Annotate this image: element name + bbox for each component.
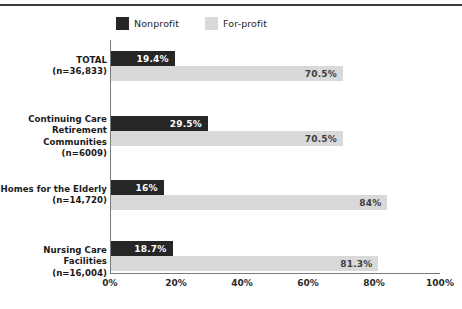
bar-row: 29.5% <box>111 116 440 131</box>
category-name-line: Nursing Care Facilities <box>0 245 107 268</box>
plot-area: TOTAL(n=36,833)19.4%70.5%Continuing Care… <box>110 40 440 274</box>
legend-swatch-nonprofit <box>116 17 129 30</box>
bar-row: 70.5% <box>111 131 440 146</box>
bar-row: 18.7% <box>111 241 440 256</box>
bar-group: Continuing CareRetirement Communities(n=… <box>111 116 440 146</box>
category-sample-size: (n=36,833) <box>0 66 107 78</box>
bar-group: Homes for the Elderly(n=14,720)16%84% <box>111 180 440 210</box>
bar-value-label: 81.3% <box>340 259 378 269</box>
x-tick-label: 80% <box>363 278 385 288</box>
bar-nonprofit[interactable]: 19.4% <box>111 51 175 66</box>
bar-group: Nursing Care Facilities(n=16,004)18.7%81… <box>111 241 440 271</box>
x-tick-label: 40% <box>231 278 253 288</box>
legend-entry-nonprofit: Nonprofit <box>116 17 179 30</box>
top-divider-rule <box>0 4 462 6</box>
bar-value-label: 70.5% <box>305 134 343 144</box>
chart-legend: NonprofitFor-profit <box>116 16 267 30</box>
category-label: TOTAL(n=36,833) <box>0 55 107 78</box>
bar-value-label: 70.5% <box>305 69 343 79</box>
bar-row: 84% <box>111 195 440 210</box>
bar-value-label: 19.4% <box>137 54 175 64</box>
category-label: Nursing Care Facilities(n=16,004) <box>0 245 107 280</box>
bar-value-label: 16% <box>135 183 163 193</box>
bar-nonprofit[interactable]: 29.5% <box>111 116 208 131</box>
x-axis-tick-labels: 0%20%40%60%80%100% <box>110 278 440 292</box>
category-label: Continuing CareRetirement Communities(n=… <box>0 114 107 160</box>
legend-entry-forprofit: For-profit <box>205 17 267 30</box>
category-name-line: Continuing Care <box>0 114 107 126</box>
x-tick-label: 100% <box>426 278 454 288</box>
bar-row: 19.4% <box>111 51 440 66</box>
category-name-line: TOTAL <box>0 55 107 67</box>
bar-forprofit[interactable]: 70.5% <box>111 66 343 81</box>
bar-row: 81.3% <box>111 256 440 271</box>
category-name-line: Homes for the Elderly <box>0 184 107 196</box>
bar-forprofit[interactable]: 81.3% <box>111 256 378 271</box>
category-sample-size: (n=14,720) <box>0 195 107 207</box>
bar-forprofit[interactable]: 70.5% <box>111 131 343 146</box>
legend-label-nonprofit: Nonprofit <box>134 18 179 29</box>
legend-label-forprofit: For-profit <box>223 18 267 29</box>
x-tick-label: 20% <box>165 278 187 288</box>
category-label: Homes for the Elderly(n=14,720) <box>0 184 107 207</box>
bar-value-label: 29.5% <box>170 119 208 129</box>
bar-nonprofit[interactable]: 18.7% <box>111 241 173 256</box>
bar-row: 16% <box>111 180 440 195</box>
legend-swatch-forprofit <box>205 17 218 30</box>
bar-value-label: 18.7% <box>134 244 172 254</box>
category-sample-size: (n=16,004) <box>0 268 107 280</box>
x-tick-label: 0% <box>102 278 117 288</box>
bar-group: TOTAL(n=36,833)19.4%70.5% <box>111 51 440 81</box>
bar-forprofit[interactable]: 84% <box>111 195 387 210</box>
x-tick-label: 60% <box>297 278 319 288</box>
category-name-line: Retirement Communities <box>0 125 107 148</box>
category-sample-size: (n=6009) <box>0 148 107 160</box>
bar-row: 70.5% <box>111 66 440 81</box>
bar-nonprofit[interactable]: 16% <box>111 180 164 195</box>
bar-value-label: 84% <box>359 198 387 208</box>
